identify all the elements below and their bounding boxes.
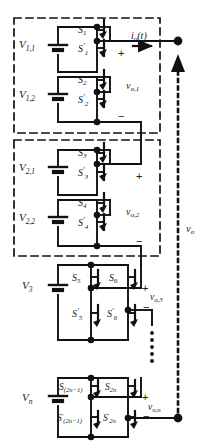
label-switch-S2n-1-prime: S′(2n−1) xyxy=(57,412,82,426)
label-source-V11: V1,1 xyxy=(19,38,35,53)
label-switch-S1: S1 xyxy=(78,24,87,37)
output-terminal-top xyxy=(174,37,183,46)
label-switch-S5: S5 xyxy=(72,272,81,285)
module-1-to-module-2-link xyxy=(97,122,141,141)
label-module-n-minus: − xyxy=(143,410,149,422)
node-module-3-mid-left xyxy=(88,285,95,292)
node-module-3-mid-right xyxy=(125,307,132,314)
label-switch-S6: S6 xyxy=(109,272,118,285)
continuation-dots xyxy=(150,331,154,363)
label-switch-S2n-1: S(2n−1) xyxy=(59,382,82,394)
label-module-1-minus: − xyxy=(118,110,124,122)
node-module-3-bottom-left xyxy=(88,337,95,344)
label-switch-S5-prime: S′5 xyxy=(72,307,83,322)
label-switch-S2n-prime: S′2n xyxy=(103,412,117,425)
node-module-n-bottom-left xyxy=(88,434,95,441)
label-output-vo3: vo,3 xyxy=(150,292,163,303)
label-module-1-plus: + xyxy=(118,47,124,59)
label-source-V22: V2,2 xyxy=(19,211,35,226)
total-voltage-arrowhead xyxy=(171,54,185,72)
label-switch-S3-prime: S′3 xyxy=(78,166,89,181)
output-terminal-bottom xyxy=(174,414,183,423)
label-source-V3: V3 xyxy=(22,279,33,294)
node-module-3-top-left xyxy=(88,262,95,269)
label-output-vo1: vo,1 xyxy=(126,80,139,93)
label-source-V12: V1,2 xyxy=(19,88,35,103)
label-module-2-plus: + xyxy=(136,170,142,182)
label-source-Vn: Vn xyxy=(22,391,33,406)
node-module-n-top-left xyxy=(88,375,95,382)
label-switch-S1-prime: S′1 xyxy=(78,42,88,57)
node-module-n-mid-left xyxy=(88,394,95,401)
label-switch-S3: S3 xyxy=(78,147,87,160)
label-switch-S4-prime: S′4 xyxy=(78,216,89,231)
label-source-V21: V2,1 xyxy=(19,161,35,176)
node-module-n-mid-right xyxy=(125,415,132,422)
label-switch-S2n: S2n xyxy=(105,382,117,393)
label-switch-S4: S4 xyxy=(78,197,87,210)
label-module-2-minus: − xyxy=(136,235,142,247)
label-output-von: vo,n xyxy=(148,402,161,413)
label-module-3-minus: − xyxy=(143,301,149,313)
label-switch-S6-prime: S′6 xyxy=(107,307,118,322)
schematic-canvas: V1,1 V1,2 S1 S′1 S2 S′2 + vo,1 − io(t) V… xyxy=(0,0,200,448)
label-output-vo2: vo,2 xyxy=(126,206,140,219)
label-switch-S2-prime: S′2 xyxy=(78,93,89,108)
circuit-diagram-figure: V1,1 V1,2 S1 S′1 S2 S′2 + vo,1 − io(t) V… xyxy=(0,0,200,448)
module-3-hbridge xyxy=(49,262,152,344)
label-module-3-plus: + xyxy=(142,282,148,294)
label-total-output-voltage: vo xyxy=(186,223,195,236)
label-switch-S2: S2 xyxy=(78,74,87,87)
